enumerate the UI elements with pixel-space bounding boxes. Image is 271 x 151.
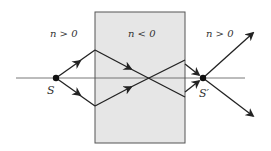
left-region-label: n > 0 <box>50 28 78 39</box>
right-region-label: n > 0 <box>206 28 234 39</box>
image-label: S′ <box>199 87 209 100</box>
ray-out-upper <box>203 33 253 78</box>
ray-out-lower <box>203 78 253 116</box>
source-label: S <box>47 84 55 97</box>
source-point <box>53 75 59 81</box>
ray-upper-1b <box>78 50 95 62</box>
ray-lower-1 <box>56 78 80 95</box>
negative-index-slab-diagram <box>0 0 271 151</box>
ray-exit-lower <box>185 81 199 92</box>
image-point <box>200 75 206 81</box>
ray-exit-upper <box>185 64 199 75</box>
ray-upper-1 <box>56 61 80 78</box>
ray-lower-1b <box>78 94 95 106</box>
slab-label: n < 0 <box>128 28 156 39</box>
